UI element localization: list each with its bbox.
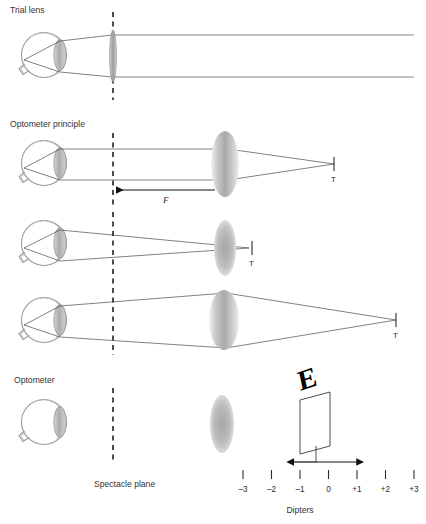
optometer-lens-3 — [209, 290, 239, 350]
diopter-tick-label: –1 — [295, 485, 305, 494]
optometer-lens-1 — [211, 131, 239, 197]
section-title-optometer-principle: Optometer principle — [10, 119, 85, 129]
section-title-trial-lens: Trial lens — [10, 5, 45, 15]
target-label-2: T — [249, 259, 254, 268]
section-title-optometer: Optometer — [14, 375, 55, 385]
figure-background — [0, 0, 426, 524]
diopter-axis-label: Dipters — [286, 505, 313, 515]
optometer-lens-4 — [210, 395, 234, 453]
target-label-1: T — [331, 175, 336, 184]
focal-distance-label: F — [162, 195, 169, 205]
diopter-tick-label: –2 — [267, 485, 277, 494]
spectacle-plane-label: Spectacle plane — [94, 479, 155, 489]
diopter-tick-label: 0 — [326, 485, 331, 494]
diopter-tick-label: –3 — [238, 485, 248, 494]
optometer-lens-2 — [214, 220, 236, 276]
trial-lens-glass — [110, 30, 117, 82]
diopter-tick-label: +1 — [352, 485, 362, 494]
diopter-tick-label: +2 — [381, 485, 391, 494]
optometer-diagram: Trial lens Optometer principle — [0, 0, 426, 524]
target-label-3: T — [393, 331, 398, 340]
diopter-tick-label: +3 — [409, 485, 419, 494]
optotype-card-inner — [307, 397, 325, 446]
